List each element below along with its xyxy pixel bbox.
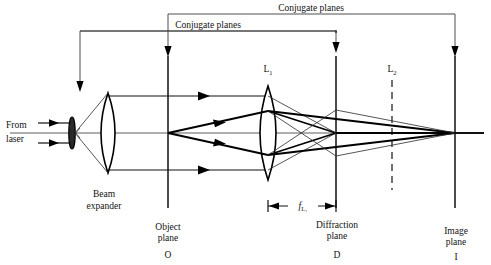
beam-expander-lens	[101, 93, 115, 173]
diffraction-plane-letter: D	[334, 250, 341, 260]
conjugate-planes-inner-label: Conjugate planes	[175, 20, 241, 30]
diffraction-plane-label-line1: Diffraction	[316, 220, 358, 230]
diffraction-plane-label-line2: plane	[327, 231, 348, 241]
inner-bracket-left-arrowhead	[76, 81, 83, 92]
object-plane-label-line1: Object	[155, 222, 181, 232]
lens-L2-label: L2	[387, 64, 396, 76]
object-plane-label-line2: plane	[158, 233, 179, 243]
collimated-lower-arrowhead	[198, 166, 210, 175]
optics-diagram-canvas: Conjugate planes Conjugate planes	[0, 0, 491, 265]
beam-expander-label-line2: expander	[87, 201, 123, 211]
from-laser-label-line2: laser	[6, 134, 25, 144]
image-plane-label-line1: Image	[444, 226, 468, 236]
collimated-upper-arrowhead	[198, 92, 210, 101]
image-plane-letter: I	[454, 252, 457, 262]
outer-bracket-right-arrowhead	[451, 46, 458, 57]
beam-expander-label-line1: Beam	[93, 189, 116, 199]
outer-bracket-left-arrowhead	[164, 46, 171, 57]
optical-diagram-figure: Conjugate planes Conjugate planes	[0, 0, 491, 265]
lens-L1-label: L1	[263, 64, 272, 76]
object-plane-letter: O	[165, 250, 172, 260]
conjugate-planes-outer-label: Conjugate planes	[278, 3, 344, 13]
from-laser-label-line1: From	[6, 120, 27, 130]
beam-expander-pinhole	[69, 117, 75, 149]
lens-L1	[260, 86, 276, 180]
inner-bracket-right-arrowhead	[332, 42, 339, 53]
conjugate-planes-inner-bracket	[76, 30, 339, 92]
image-plane-label-line2: plane	[446, 237, 467, 247]
